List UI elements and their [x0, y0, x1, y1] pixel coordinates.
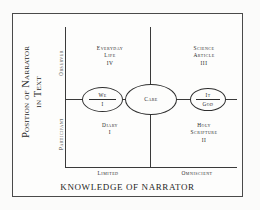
diagram-canvas: Position of Narrator in Text Observer Pa… [0, 0, 260, 210]
quadrant-upper-right-line-3: III [172, 60, 236, 67]
y-axis-title-line-1: Position of Narrator [20, 21, 32, 163]
node-ellipse-care: Care [125, 84, 177, 115]
y-axis-title-line-2: in Text [32, 21, 44, 163]
y-axis-pole-participant: Participant [58, 99, 64, 169]
node-god-label: God [203, 101, 214, 108]
quadrant-lower-left-line-2: I [78, 129, 142, 136]
quadrant-label-science-article: Science Article III [172, 45, 236, 67]
quadrant-label-everyday-life: Everyday Life IV [78, 45, 142, 67]
quadrant-upper-right-line-1: Science [172, 45, 236, 52]
x-axis-title: KNOWLEDGE OF NARRATOR [20, 182, 235, 192]
node-we-label: We [98, 92, 106, 99]
quadrant-lower-right-line-3: II [170, 137, 238, 144]
y-axis-pole-observer: Observer [58, 32, 64, 94]
node-ellipse-it-god: It God [190, 88, 226, 111]
quadrant-label-holy-scripture: Holy Scripture II [170, 122, 238, 144]
quadrant-lower-right-line-1: Holy [170, 122, 238, 129]
quadrant-lower-right-line-2: Scripture [170, 129, 238, 136]
quadrant-upper-left-line-1: Everyday [78, 45, 142, 52]
node-care-label: Care [144, 96, 158, 103]
node-it-label: It [205, 92, 210, 99]
y-axis-title: Position of Narrator in Text [20, 21, 44, 163]
quadrant-upper-left-line-2: Life [78, 52, 142, 59]
quadrant-upper-right-line-2: Article [172, 52, 236, 59]
x-axis-tick-limited: Limited [76, 170, 140, 176]
quadrant-lower-left-line-1: Diary [78, 122, 142, 129]
x-axis-tick-omniscient: Omniscient [162, 170, 232, 176]
node-ellipse-we-i: We I [82, 87, 123, 112]
node-i-label: I [101, 101, 103, 108]
quadrant-label-diary: Diary I [78, 122, 142, 137]
y-axis-line [65, 27, 66, 167]
quadrant-upper-left-line-3: IV [78, 60, 142, 67]
